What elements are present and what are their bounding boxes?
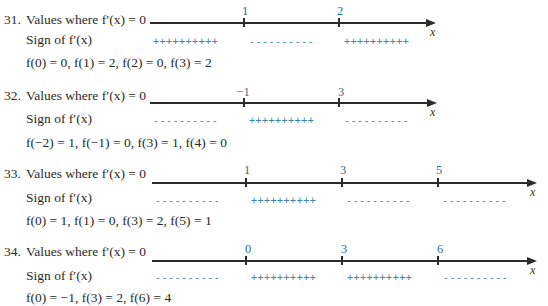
tick-mark	[243, 18, 245, 27]
function-values: f(0) = 0, f(1) = 2, f(2) = 0, f(3) = 2	[26, 55, 212, 71]
tick-label: 1	[244, 163, 250, 178]
sign-segment: ----------	[155, 195, 220, 206]
tick-label: 3	[338, 85, 344, 100]
number-line	[152, 260, 527, 262]
tick-label: 1	[242, 4, 248, 19]
axis-variable-label: x	[530, 185, 535, 200]
number-line	[152, 182, 527, 184]
tick-mark	[437, 178, 439, 187]
tick-mark	[338, 18, 340, 27]
axis-variable-label: x	[430, 105, 435, 120]
axis-variable-label: x	[530, 263, 535, 278]
function-values: f(−2) = 1, f(−1) = 0, f(3) = 1, f(4) = 0	[26, 135, 227, 151]
number-line	[150, 102, 427, 104]
function-values: f(0) = 1, f(1) = 0, f(3) = 2, f(5) = 1	[26, 213, 212, 229]
sign-of-derivative-label: Sign of f′(x)	[26, 268, 92, 284]
tick-mark	[341, 256, 343, 265]
sign-segment: ----------	[155, 272, 220, 283]
tick-mark	[341, 178, 343, 187]
sign-segment: ++++++++++	[249, 115, 314, 126]
sign-segment: ----------	[443, 272, 508, 283]
sign-segment: ----------	[442, 195, 507, 206]
sign-segment: ----------	[344, 115, 409, 126]
sign-of-derivative-label: Sign of f′(x)	[26, 32, 92, 48]
tick-label: 2	[337, 4, 343, 19]
sign-of-derivative-label: Sign of f′(x)	[26, 111, 92, 127]
number-line	[150, 22, 426, 24]
sign-of-derivative-label: Sign of f′(x)	[26, 190, 92, 206]
problem-number: 31.	[4, 12, 21, 28]
problem-number: 34.	[4, 244, 21, 260]
tick-label: 3	[340, 163, 346, 178]
sign-segment: ----------	[153, 115, 218, 126]
tick-label: 3	[341, 242, 347, 257]
sign-segment: ----------	[346, 195, 411, 206]
values-where-derivative-zero-label: Values where f′(x) = 0	[26, 12, 146, 28]
problem-number: 33.	[4, 166, 21, 182]
sign-segment: ++++++++++	[251, 272, 316, 283]
tick-label: 5	[436, 163, 442, 178]
values-where-derivative-zero-label: Values where f′(x) = 0	[26, 88, 146, 104]
problem-number: 32.	[4, 88, 21, 104]
tick-mark	[437, 256, 439, 265]
tick-label: −1	[236, 85, 249, 100]
axis-variable-label: x	[430, 25, 435, 40]
values-where-derivative-zero-label: Values where f′(x) = 0	[26, 166, 146, 182]
sign-segment: ++++++++++	[347, 272, 412, 283]
sign-segment: ----------	[249, 36, 314, 47]
tick-mark	[245, 178, 247, 187]
sign-segment: ++++++++++	[153, 36, 218, 47]
function-values: f(0) = −1, f(3) = 2, f(6) = 4	[26, 290, 171, 306]
tick-label: 0	[245, 242, 251, 257]
sign-segment: ++++++++++	[251, 195, 316, 206]
tick-mark	[245, 256, 247, 265]
sign-segment: ++++++++++	[344, 36, 409, 47]
values-where-derivative-zero-label: Values where f′(x) = 0	[26, 244, 146, 260]
tick-label: 6	[437, 242, 443, 257]
